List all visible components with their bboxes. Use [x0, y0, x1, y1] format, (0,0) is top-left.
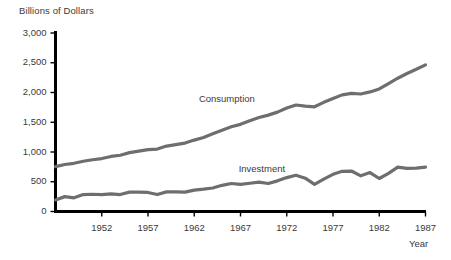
y-tick-label: 1,000	[7, 146, 47, 157]
series-label-consumption: Consumption	[199, 93, 255, 104]
x-tick-label: 1972	[267, 222, 307, 233]
x-tick-label: 1987	[406, 222, 446, 233]
y-tick-label: 3,000	[7, 27, 47, 38]
y-tick-label: 0	[7, 205, 47, 216]
x-tick-label: 1957	[128, 222, 168, 233]
series-line-consumption	[56, 65, 426, 167]
y-tick-label: 2,000	[7, 86, 47, 97]
x-axis-title: Year	[409, 238, 428, 249]
x-tick-label: 1977	[313, 222, 353, 233]
chart-container: Billions of Dollars 05001,0001,5002,0002…	[0, 0, 451, 260]
y-tick-label: 2,500	[7, 56, 47, 67]
series-label-investment: Investment	[239, 163, 285, 174]
x-tick-label: 1962	[174, 222, 214, 233]
x-tick-label: 1952	[82, 222, 122, 233]
y-tick-label: 1,500	[7, 116, 47, 127]
x-tick-label: 1967	[221, 222, 261, 233]
x-tick-label: 1982	[359, 222, 399, 233]
y-tick-label: 500	[7, 175, 47, 186]
data-series-group	[56, 65, 426, 200]
